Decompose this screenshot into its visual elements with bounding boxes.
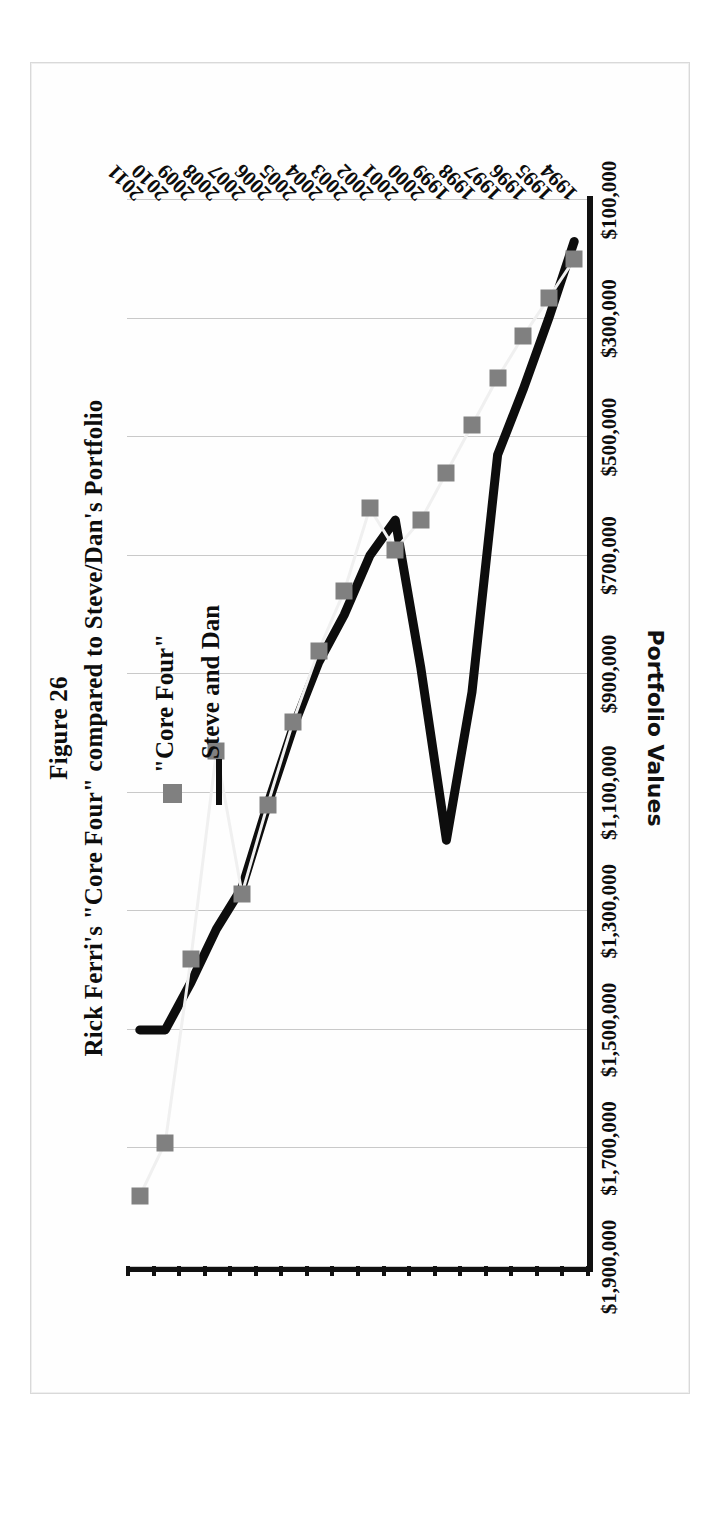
x-axis-tick bbox=[458, 1266, 462, 1276]
x-axis-tick bbox=[484, 1266, 488, 1276]
x-axis-tick bbox=[279, 1266, 283, 1276]
x-axis-tick bbox=[433, 1266, 437, 1276]
x-axis-tick bbox=[407, 1266, 411, 1276]
legend-item-core-four: "Core Four" bbox=[151, 503, 197, 803]
x-axis-tick bbox=[152, 1266, 156, 1276]
y-axis-tick-label: $700,000 bbox=[597, 516, 622, 595]
legend-square-swatch-icon bbox=[163, 784, 182, 803]
x-axis-tick bbox=[382, 1266, 386, 1276]
data-point-marker bbox=[336, 583, 353, 600]
data-point-marker bbox=[285, 713, 302, 730]
x-axis-tick bbox=[509, 1266, 513, 1276]
data-point-marker bbox=[131, 1187, 148, 1204]
figure-subtitle: Rick Ferri's "Core Four" compared to Ste… bbox=[80, 63, 108, 1393]
x-axis-line bbox=[587, 196, 593, 1272]
data-point-marker bbox=[438, 464, 455, 481]
x-axis-tick bbox=[177, 1266, 181, 1276]
figure-title: Figure 26 bbox=[45, 63, 73, 1393]
figure-page: Figure 26 Rick Ferri's "Core Four" compa… bbox=[0, 0, 720, 1515]
y-axis-tick-label: $500,000 bbox=[597, 398, 622, 477]
x-axis-tick bbox=[356, 1266, 360, 1276]
scanned-figure-frame: Figure 26 Rick Ferri's "Core Four" compa… bbox=[30, 62, 690, 1394]
legend-label-core-four: "Core Four" bbox=[151, 634, 179, 773]
data-point-marker bbox=[515, 328, 532, 345]
data-point-marker bbox=[361, 500, 378, 517]
x-axis-tick bbox=[126, 1266, 130, 1276]
data-point-marker bbox=[464, 417, 481, 434]
figure-stage: Figure 26 Rick Ferri's "Core Four" compa… bbox=[31, 63, 689, 1393]
data-point-marker bbox=[234, 885, 251, 902]
data-point-marker bbox=[259, 796, 276, 813]
y-axis-tick-label: $1,500,000 bbox=[597, 983, 622, 1078]
data-point-marker bbox=[566, 251, 583, 268]
y-axis-tick-label: $900,000 bbox=[597, 635, 622, 714]
data-point-marker bbox=[540, 289, 557, 306]
figure-stage-wrapper: Figure 26 Rick Ferri's "Core Four" compa… bbox=[31, 63, 689, 1393]
x-axis-tick bbox=[254, 1266, 258, 1276]
y-axis-tick-label: $1,900,000 bbox=[597, 1220, 622, 1315]
x-axis-tick bbox=[560, 1266, 564, 1276]
y-axis-tick-label: $1,700,000 bbox=[597, 1101, 622, 1196]
data-point-marker bbox=[310, 642, 327, 659]
x-axis-tick bbox=[586, 1266, 590, 1276]
x-axis-tick bbox=[305, 1266, 309, 1276]
data-point-marker bbox=[412, 512, 429, 529]
y-axis-tick-label: $1,100,000 bbox=[597, 746, 622, 841]
x-axis-tick bbox=[330, 1266, 334, 1276]
chart-legend: "Core Four" Steve and Dan bbox=[151, 503, 243, 803]
x-axis-tick-labels: 1994199519961997199819992000200120022003… bbox=[127, 67, 587, 197]
x-axis-tick bbox=[535, 1266, 539, 1276]
y-axis-tick-label: $100,000 bbox=[597, 161, 622, 240]
x-axis-tick bbox=[228, 1266, 232, 1276]
data-point-marker bbox=[489, 369, 506, 386]
x-axis-tick bbox=[203, 1266, 207, 1276]
legend-label-steve-and-dan: Steve and Dan bbox=[197, 605, 225, 759]
y-axis-tick-label: $1,300,000 bbox=[597, 864, 622, 959]
legend-line-swatch-icon bbox=[216, 759, 222, 805]
data-point-marker bbox=[387, 541, 404, 558]
legend-item-steve-and-dan: Steve and Dan bbox=[197, 503, 243, 803]
y-axis-tick-labels: $1,900,000$1,700,000$1,500,000$1,300,000… bbox=[597, 200, 641, 1267]
data-point-marker bbox=[157, 1134, 174, 1151]
data-point-marker bbox=[182, 950, 199, 967]
y-axis-title: Portfolio Values bbox=[643, 63, 668, 1393]
y-axis-tick-label: $300,000 bbox=[597, 279, 622, 358]
